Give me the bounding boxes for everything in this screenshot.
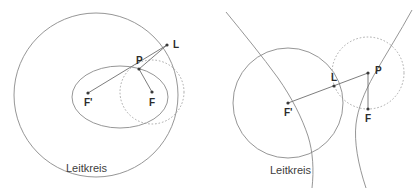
right-point-P-marker xyxy=(366,71,369,74)
right-segment-Fprime-to-P xyxy=(288,73,368,103)
right-label-Fprime: F' xyxy=(284,107,293,118)
left-segment-P-to-L xyxy=(139,45,167,69)
left-label-F: F xyxy=(149,97,155,108)
left-point-F-marker xyxy=(150,90,153,93)
left-point-L-marker xyxy=(165,43,168,46)
left-point-Fprime-marker xyxy=(86,91,89,94)
left-label-Fprime: F' xyxy=(84,97,93,108)
figure-root: L P F' F Leitkreis xyxy=(0,0,419,193)
right-point-F-marker xyxy=(366,107,369,110)
left-label-L: L xyxy=(173,39,179,50)
geometry-figure: L P F' F Leitkreis xyxy=(0,0,419,193)
left-diagram: L P F' F Leitkreis xyxy=(14,13,184,177)
left-label-P: P xyxy=(136,55,143,66)
right-hyperbola-branch-near xyxy=(355,10,412,188)
right-label-P: P xyxy=(375,65,382,76)
right-hyperbola-branch-far xyxy=(226,12,313,188)
right-label-F: F xyxy=(365,113,371,124)
right-diagram: L P F' F Leitkreis xyxy=(226,10,412,188)
left-leitkreis-circle xyxy=(14,13,178,177)
left-point-P-marker xyxy=(137,67,140,70)
right-point-Fprime-marker xyxy=(286,101,289,104)
left-caption-leitkreis: Leitkreis xyxy=(66,162,107,174)
right-caption-leitkreis: Leitkreis xyxy=(270,164,311,176)
right-point-L-marker xyxy=(332,84,335,87)
right-label-L: L xyxy=(331,72,337,83)
